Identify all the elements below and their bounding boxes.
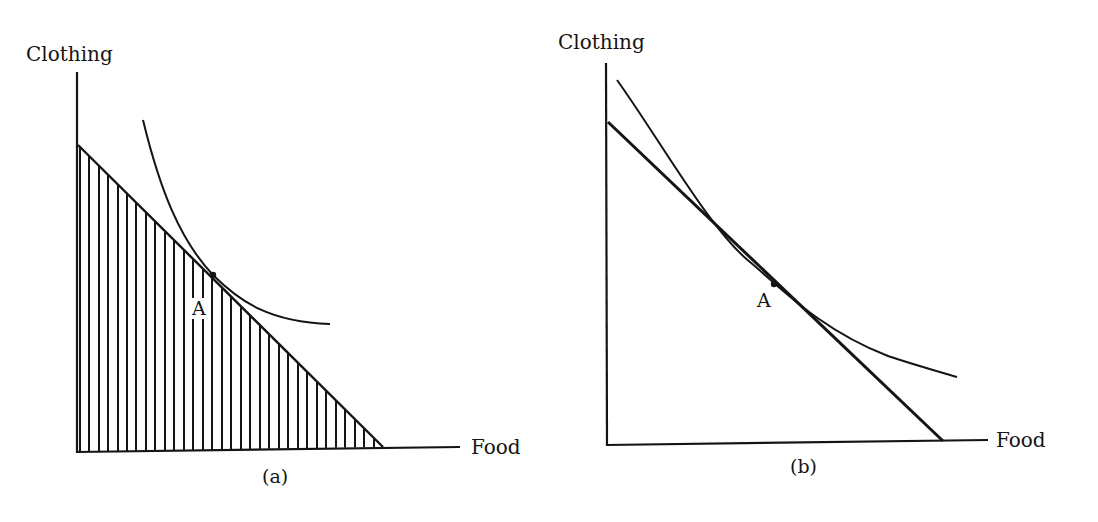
panel-a: Clothing Food A (a) xyxy=(0,0,550,522)
panel-a-plot xyxy=(0,0,550,522)
indifference-curve xyxy=(617,80,957,377)
y-axis-label: Clothing xyxy=(558,32,645,52)
point-a-label: A xyxy=(191,298,207,319)
x-axis-label: Food xyxy=(471,437,521,457)
x-axis-label: Food xyxy=(996,430,1046,450)
y-axis xyxy=(606,63,607,446)
tangency-point-a xyxy=(210,272,216,278)
panel-b: Clothing Food A (b) xyxy=(550,0,1098,522)
panel-caption: (a) xyxy=(262,467,288,486)
panel-caption: (b) xyxy=(790,457,817,476)
x-axis xyxy=(606,440,988,445)
point-a-label: A xyxy=(756,290,772,311)
tangency-point-a xyxy=(771,281,777,287)
y-axis-label: Clothing xyxy=(26,44,113,64)
budget-set-hatching xyxy=(80,140,374,455)
indifference-curve xyxy=(143,120,330,324)
